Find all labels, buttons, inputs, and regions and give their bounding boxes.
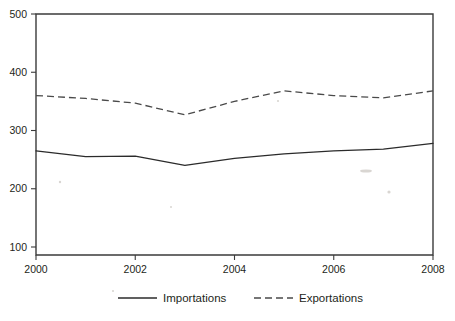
x-tick-label: 2000 [24, 263, 48, 275]
x-tick-label: 2008 [421, 263, 445, 275]
legend-label: Exportations [299, 292, 363, 304]
x-axis: 20002002200420062008 [24, 255, 445, 275]
legend-item-exportations: Exportations [254, 292, 363, 304]
x-tick-label: 2002 [124, 263, 148, 275]
y-tick-label: 300 [9, 124, 27, 136]
chart-legend: ImportationsExportations [118, 292, 363, 304]
y-tick-label: 100 [9, 241, 27, 253]
series-line-exportations [36, 91, 433, 115]
chart-canvas: 100200300400500 20002002200420062008 Imp… [0, 0, 455, 321]
plot-frame [36, 14, 433, 255]
line-chart: 100200300400500 20002002200420062008 Imp… [0, 0, 455, 321]
y-tick-label: 400 [9, 66, 27, 78]
y-axis: 100200300400500 [9, 8, 36, 253]
legend-label: Importations [163, 292, 227, 304]
y-tick-label: 200 [9, 182, 27, 194]
x-tick-label: 2004 [223, 263, 247, 275]
legend-item-importations: Importations [118, 292, 227, 304]
y-tick-label: 500 [9, 8, 27, 20]
data-series-group [36, 91, 433, 166]
series-line-importations [36, 143, 433, 165]
x-tick-label: 2006 [322, 263, 346, 275]
